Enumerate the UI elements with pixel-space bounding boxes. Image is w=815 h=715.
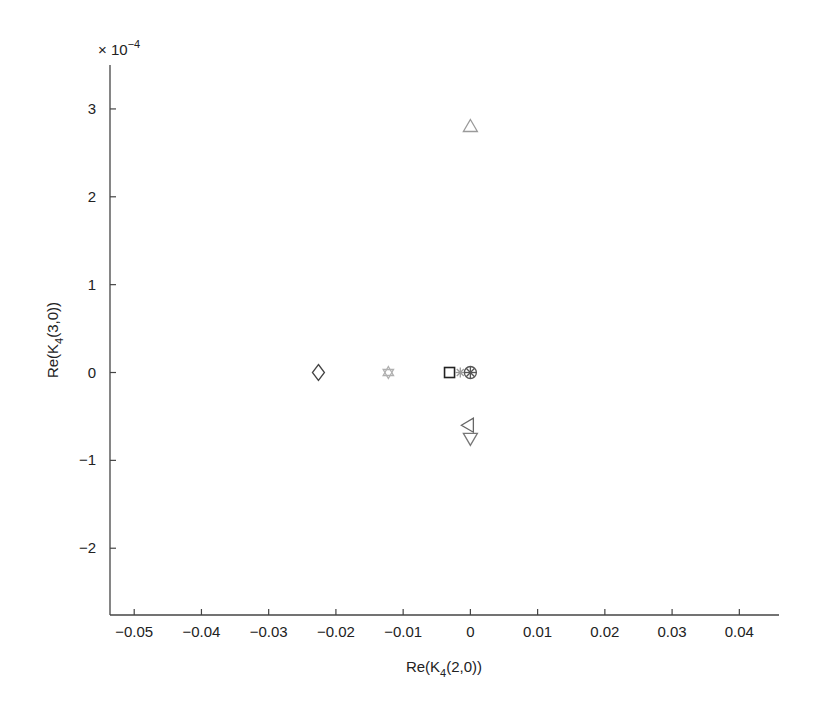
y-tick-label: 3 bbox=[88, 100, 96, 117]
x-axis-label: Re(K4(2,0)) bbox=[406, 658, 482, 679]
circle-x-marker-icon bbox=[464, 367, 476, 379]
x-tick-label: −0.01 bbox=[384, 623, 422, 640]
x-tick-label: 0.03 bbox=[657, 623, 686, 640]
triangle-left-marker-icon bbox=[461, 418, 473, 432]
triangle-down-marker-icon bbox=[463, 433, 477, 445]
hexagram-marker-icon bbox=[383, 367, 393, 379]
x-tick-label: 0 bbox=[466, 623, 474, 640]
y-tick-label: 2 bbox=[88, 188, 96, 205]
x-tick-label: −0.04 bbox=[182, 623, 220, 640]
x-tick-label: −0.02 bbox=[317, 623, 355, 640]
x-ticks: −0.05−0.04−0.03−0.02−0.0100.010.020.030.… bbox=[115, 609, 754, 640]
x-tick-label: 0.04 bbox=[725, 623, 754, 640]
scatter-plot: −0.05−0.04−0.03−0.02−0.0100.010.020.030.… bbox=[0, 0, 815, 715]
y-tick-label: −1 bbox=[79, 451, 96, 468]
x-tick-label: −0.05 bbox=[115, 623, 153, 640]
square-marker-icon bbox=[445, 368, 455, 378]
y-tick-label: 0 bbox=[88, 364, 96, 381]
x-tick-label: 0.01 bbox=[523, 623, 552, 640]
diamond-marker-icon bbox=[312, 365, 324, 381]
y-tick-label: 1 bbox=[88, 276, 96, 293]
x-tick-label: 0.02 bbox=[590, 623, 619, 640]
y-tick-label: −2 bbox=[79, 539, 96, 556]
axes bbox=[110, 65, 779, 615]
data-markers bbox=[312, 120, 477, 446]
x-tick-label: −0.03 bbox=[250, 623, 288, 640]
triangle-up-marker-icon bbox=[463, 120, 477, 132]
y-multiplier: × 10−4 bbox=[98, 38, 140, 58]
y-axis-label: Re(K4(3,0)) bbox=[44, 302, 65, 378]
